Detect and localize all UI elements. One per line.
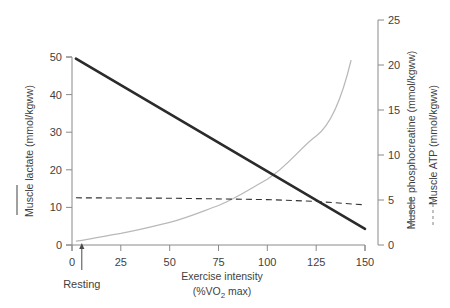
left-tick-label-50: 50	[50, 51, 62, 63]
right-y-axis: 25 20 15 10 5 0 Muscle phosphocreatine (…	[378, 14, 439, 251]
right-axis-title-atp: Muscle ATP (mmol/kgww)	[427, 85, 439, 205]
chart-figure: 50 40 30 20 10 0 Muscle lactate (mmol/kg…	[0, 0, 450, 308]
series-group	[76, 59, 365, 242]
x-tick-label-125: 125	[307, 256, 325, 268]
series-muscle-phosphocreatine	[76, 59, 365, 229]
x-tick-label-75: 75	[212, 256, 224, 268]
right-tick-label-0: 0	[388, 239, 394, 251]
left-tick-label-0: 0	[56, 239, 62, 251]
chart-svg: 50 40 30 20 10 0 Muscle lactate (mmol/kg…	[0, 0, 450, 308]
resting-label: Resting	[63, 278, 100, 290]
left-tick-label-30: 30	[50, 126, 62, 138]
left-axis-line	[66, 57, 72, 245]
left-y-axis: 50 40 30 20 10 0 Muscle lactate (mmol/kg…	[17, 51, 72, 251]
left-tick-label-10: 10	[50, 201, 62, 213]
right-tick-label-25: 25	[388, 14, 400, 26]
x-units-pre: (%VO	[193, 285, 221, 297]
right-tick-label-10: 10	[388, 149, 400, 161]
x-axis-title: Exercise intensity	[181, 270, 263, 282]
x-units-post: max)	[225, 285, 251, 297]
left-tick-label-20: 20	[50, 164, 62, 176]
series-muscle-lactate	[76, 60, 351, 241]
right-tick-label-5: 5	[388, 194, 394, 206]
x-tick-label-25: 25	[115, 256, 127, 268]
x-tick-label-50: 50	[164, 256, 176, 268]
right-tick-label-20: 20	[388, 59, 400, 71]
x-tick-label-150: 150	[356, 256, 374, 268]
x-axis-title-units: (%VO2 max)	[193, 285, 252, 300]
x-tick-label-0: 0	[69, 256, 75, 268]
left-tick-label-40: 40	[50, 89, 62, 101]
resting-arrow-head	[79, 243, 84, 249]
x-axis: 0 25 50 75 100 125 150 Exercise intensit…	[69, 245, 374, 300]
x-tick-label-100: 100	[258, 256, 276, 268]
right-tick-label-15: 15	[388, 104, 400, 116]
left-axis-title: Muscle lactate (mmol/kgww)	[23, 85, 35, 217]
